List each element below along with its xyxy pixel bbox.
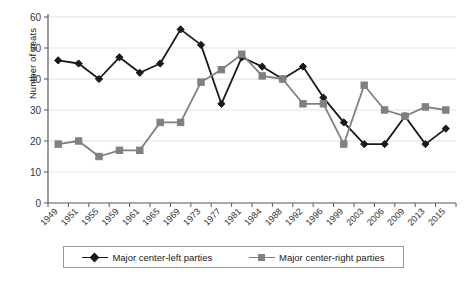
- svg-text:2015: 2015: [426, 206, 447, 227]
- svg-text:50: 50: [30, 43, 42, 54]
- svg-text:1949: 1949: [38, 206, 59, 227]
- svg-text:2003: 2003: [344, 206, 365, 227]
- svg-text:40: 40: [30, 74, 42, 85]
- svg-text:1984: 1984: [242, 206, 263, 227]
- svg-text:1999: 1999: [324, 206, 345, 227]
- svg-text:1977: 1977: [202, 206, 223, 227]
- legend-marker-center-left-icon: [82, 252, 108, 263]
- svg-text:1992: 1992: [283, 206, 304, 227]
- legend-item-center-left: Major center-left parties: [82, 252, 212, 263]
- svg-text:1951: 1951: [59, 206, 80, 227]
- legend-marker-center-right-icon: [249, 252, 275, 263]
- svg-text:1981: 1981: [222, 206, 243, 227]
- svg-text:1969: 1969: [161, 206, 182, 227]
- svg-text:1955: 1955: [79, 206, 100, 227]
- series-center-left: [55, 26, 450, 148]
- y-axis-ticks: 0102030405060: [30, 12, 48, 209]
- gridlines: [48, 17, 456, 172]
- legend-item-center-right: Major center-right parties: [249, 252, 385, 263]
- svg-text:2009: 2009: [385, 206, 406, 227]
- data-series-layer: [55, 26, 450, 160]
- svg-text:2006: 2006: [365, 206, 386, 227]
- svg-text:1959: 1959: [100, 206, 121, 227]
- svg-text:30: 30: [30, 105, 42, 116]
- svg-text:0: 0: [35, 198, 41, 209]
- x-axis-ticks: 1949195119551959196119651969197319771981…: [38, 203, 456, 228]
- svg-text:60: 60: [30, 12, 42, 23]
- svg-text:10: 10: [30, 167, 42, 178]
- chart-plot-area: 0102030405060 19491951195519591961196519…: [0, 0, 471, 240]
- series-center-right: [55, 51, 449, 160]
- legend-label-center-right: Major center-right parties: [279, 252, 385, 263]
- svg-text:1996: 1996: [304, 206, 325, 227]
- svg-text:1961: 1961: [120, 206, 141, 227]
- svg-text:2013: 2013: [406, 206, 427, 227]
- svg-text:1988: 1988: [263, 206, 284, 227]
- chart-figure: Number of seats 0102030405060 1949195119…: [0, 0, 471, 281]
- svg-text:1965: 1965: [140, 206, 161, 227]
- svg-text:1973: 1973: [181, 206, 202, 227]
- legend-label-center-left: Major center-left parties: [112, 252, 212, 263]
- chart-legend: Major center-left parties Major center-r…: [63, 246, 404, 268]
- axis-lines: [48, 14, 456, 203]
- svg-text:20: 20: [30, 136, 42, 147]
